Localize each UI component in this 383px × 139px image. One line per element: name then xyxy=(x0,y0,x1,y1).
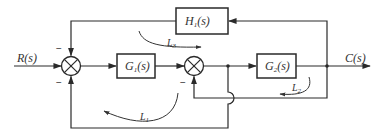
loop-l1-label: L1 xyxy=(139,111,149,124)
block-g1: G1(s) xyxy=(117,54,155,78)
summing-junction-2 xyxy=(185,57,204,76)
svg-text:G2(s): G2(s) xyxy=(265,59,290,74)
loop-l3-label: L3 xyxy=(166,37,177,50)
sum1-top-sign: − xyxy=(56,43,62,54)
h1-feedback-out-line xyxy=(71,21,176,56)
summing-junction-1 xyxy=(62,57,81,76)
block-g2: G2(s) xyxy=(257,54,296,78)
input-label: R(s) xyxy=(16,51,37,65)
output-label: C(s) xyxy=(345,51,366,65)
svg-text:G1(s): G1(s) xyxy=(125,59,150,74)
block-diagram: R(s) − − G1(s) − G2(s) C(s) H1(s) xyxy=(0,0,383,139)
loop-l2-label: L2 xyxy=(291,82,302,95)
block-h1: H1(s) xyxy=(176,8,228,34)
svg-text:H1(s): H1(s) xyxy=(184,14,210,29)
sum2-bottom-sign: − xyxy=(180,77,186,88)
sum1-bottom-sign: − xyxy=(56,77,62,88)
